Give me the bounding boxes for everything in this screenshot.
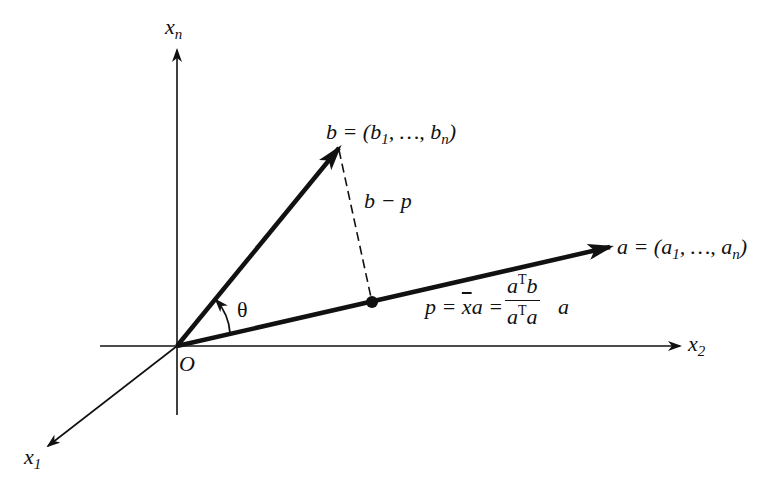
axis-label-x2: x2	[688, 333, 705, 359]
vector-a-label: a = (a1, …, an)	[617, 236, 747, 262]
error-vector-dashed	[339, 150, 372, 302]
angle-arc	[216, 300, 230, 333]
axis-label-xn: xn	[165, 16, 182, 42]
angle-label: θ	[237, 299, 248, 321]
projection-fraction: aTb aTa	[505, 273, 540, 328]
projection-formula-tail: a	[558, 296, 569, 318]
x1-axis	[48, 346, 177, 446]
projection-point	[366, 296, 378, 308]
projection-formula-lhs: p = xa =	[425, 296, 503, 318]
origin-label: O	[179, 353, 195, 375]
projection-diagram: xn x2 x1 O b = (b1, …, bn) a = (a1, …, a…	[0, 0, 767, 489]
axis-label-x1: x1	[24, 446, 41, 472]
vector-b-label: b = (b1, …, bn)	[326, 121, 456, 147]
error-label: b − p	[364, 190, 412, 212]
